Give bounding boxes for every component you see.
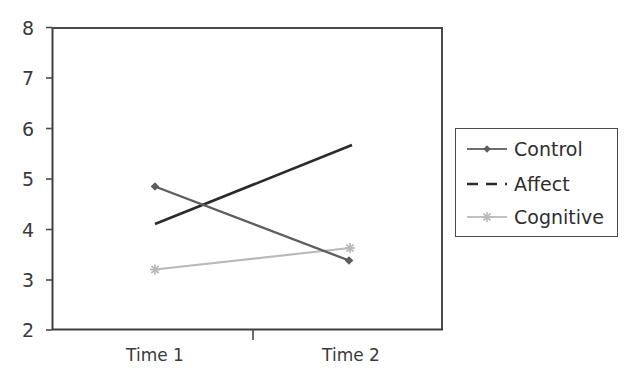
legend-entry-control: Control <box>456 131 617 167</box>
y-tick-marks <box>46 28 52 331</box>
y-tick-label-2: 2 <box>8 319 34 341</box>
legend-label-control: Control <box>514 140 583 159</box>
x-tick-label-time-1: Time 1 <box>100 345 210 365</box>
legend-label-cognitive: Cognitive <box>514 208 604 227</box>
legend-label-affect: Affect <box>514 175 570 194</box>
y-tick-label-6: 6 <box>8 118 34 140</box>
y-tick-label-3: 3 <box>8 269 34 291</box>
line-chart-figure: 8 7 6 5 4 3 2 Time 1 Time 2 Control Affe… <box>0 0 626 389</box>
y-tick-label-5: 5 <box>8 168 34 190</box>
chart-legend: Control Affect <box>455 128 618 237</box>
legend-entry-affect: Affect <box>456 166 617 202</box>
legend-line-sample-affect <box>464 173 510 195</box>
y-tick-label-4: 4 <box>8 219 34 241</box>
series-affect <box>155 145 352 224</box>
series-cognitive <box>150 243 355 275</box>
x-tick-label-time-2: Time 2 <box>296 345 406 365</box>
y-tick-label-7: 7 <box>8 67 34 89</box>
axes-frame <box>52 27 443 330</box>
legend-line-sample-cognitive <box>464 206 510 228</box>
series-control <box>151 182 354 265</box>
legend-entry-cognitive: Cognitive <box>456 199 617 235</box>
legend-line-sample-control <box>464 138 510 160</box>
y-tick-label-8: 8 <box>8 17 34 39</box>
